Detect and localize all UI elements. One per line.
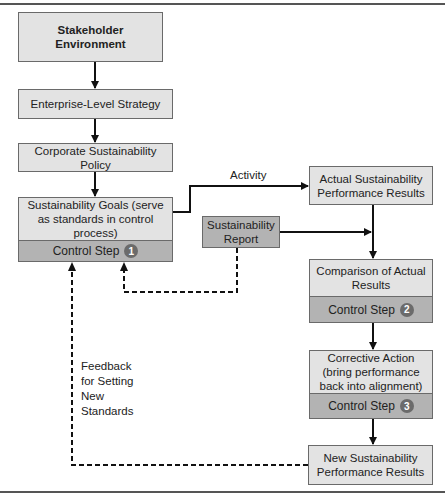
node-label: Actual Sustainability Performance Result… — [310, 167, 432, 204]
control-step-3: Control Step 3 — [310, 393, 432, 418]
feedback-line-2: for Setting — [81, 374, 133, 389]
edge-label-feedback: Feedback for Setting New Standards — [81, 359, 133, 419]
feedback-line-4: Standards — [81, 404, 133, 419]
node-label: Corporate Sustainability Policy — [19, 144, 172, 172]
edge-label-activity: Activity — [230, 168, 266, 183]
step-number-badge: 1 — [124, 244, 138, 258]
node-corporate-policy: Corporate Sustainability Policy — [18, 143, 173, 172]
node-comparison: Comparison of Actual Results Control Ste… — [309, 259, 433, 323]
node-new-results: New Sustainability Performance Results — [308, 445, 433, 485]
feedback-line-3: New — [81, 389, 133, 404]
node-actual-results: Actual Sustainability Performance Result… — [309, 166, 433, 205]
node-label: Sustainability Goals (serve as standards… — [19, 198, 172, 240]
node-corrective-action: Corrective Action (bring performance bac… — [309, 350, 433, 419]
node-stakeholder-environment: Stakeholder Environment — [18, 12, 163, 62]
node-enterprise-strategy: Enterprise-Level Strategy — [18, 89, 173, 119]
node-label: Corrective Action (bring performance bac… — [310, 351, 432, 393]
node-label: New Sustainability Performance Results — [309, 446, 432, 484]
node-label: Sustainability Report — [203, 217, 279, 247]
feedback-line-1: Feedback — [81, 359, 133, 374]
node-sustainability-report: Sustainability Report — [202, 216, 280, 248]
control-step-label: Control Step — [328, 303, 395, 317]
node-label: Comparison of Actual Results — [310, 260, 432, 296]
node-label: Enterprise-Level Strategy — [19, 90, 172, 118]
step-number-badge: 2 — [400, 303, 414, 317]
control-step-1: Control Step 1 — [19, 240, 172, 261]
control-step-label: Control Step — [328, 399, 395, 413]
control-step-2: Control Step 2 — [310, 296, 432, 322]
node-sustainability-goals: Sustainability Goals (serve as standards… — [18, 197, 173, 262]
control-step-label: Control Step — [53, 244, 120, 258]
step-number-badge: 3 — [400, 399, 414, 413]
node-label: Stakeholder Environment — [19, 13, 162, 61]
